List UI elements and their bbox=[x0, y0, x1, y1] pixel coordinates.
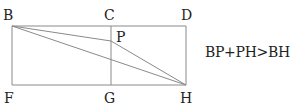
point-label-g: G bbox=[104, 90, 115, 106]
segment-bh bbox=[12, 26, 186, 85]
point-label-f: F bbox=[4, 90, 14, 106]
point-label-c: C bbox=[104, 7, 115, 23]
point-label-d: D bbox=[181, 7, 192, 23]
point-label-b: B bbox=[3, 7, 13, 23]
inequality-formula: BP+PH>BH bbox=[205, 44, 290, 60]
point-label-h: H bbox=[180, 90, 192, 106]
segment-bp bbox=[12, 26, 111, 41]
diagram-point-labels: BCDPFGH bbox=[3, 7, 192, 106]
diagram-segments bbox=[12, 26, 186, 85]
point-label-p: P bbox=[116, 29, 125, 45]
